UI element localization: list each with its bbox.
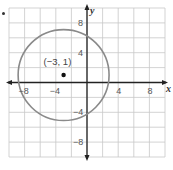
x-tick-label: −8 bbox=[19, 86, 29, 96]
y-axis-arrow-down-icon bbox=[85, 155, 90, 161]
coordinate-plane: (−3, 1) x y −8−44884−4−8 bbox=[0, 0, 173, 170]
x-axis-label: x bbox=[165, 83, 171, 94]
y-tick-label: 4 bbox=[78, 48, 83, 58]
center-point-label: (−3, 1) bbox=[44, 56, 72, 67]
y-tick-label: −8 bbox=[73, 137, 83, 147]
center-point bbox=[61, 73, 65, 77]
axes bbox=[6, 4, 168, 161]
x-tick-label: −4 bbox=[50, 86, 60, 96]
y-axis-label: y bbox=[89, 5, 95, 16]
y-axis-arrow-up-icon bbox=[85, 4, 90, 10]
x-tick-label: 4 bbox=[116, 86, 121, 96]
x-tick-label: 8 bbox=[147, 86, 152, 96]
y-tick-label: −4 bbox=[73, 107, 83, 117]
y-tick-label: 8 bbox=[78, 18, 83, 28]
